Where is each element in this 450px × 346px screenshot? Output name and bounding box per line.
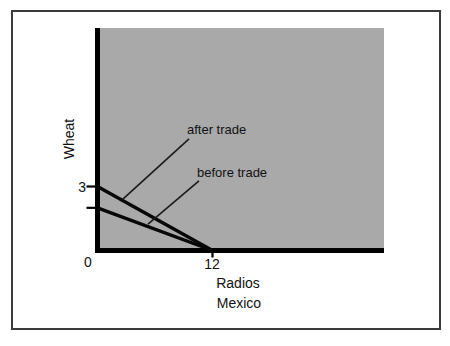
y-tick-label-3: 3 — [70, 180, 86, 194]
plot-area — [95, 28, 384, 251]
country-caption: Mexico — [214, 296, 264, 310]
figure: Wheat 3 0 12 Radios Mexico after trade b… — [0, 0, 450, 346]
y-axis-label: Wheat — [62, 110, 76, 168]
annotation-before-trade: before trade — [197, 165, 267, 180]
annotation-after-trade: after trade — [187, 122, 246, 137]
x-tick-label-12: 12 — [198, 257, 226, 271]
x-tick-label-0: 0 — [78, 255, 98, 269]
x-axis-label: Radios — [214, 276, 262, 290]
